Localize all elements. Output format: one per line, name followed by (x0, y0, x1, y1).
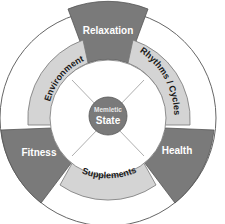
center-label-line1: Memletic (94, 106, 122, 113)
label-fitness: Fitness (21, 147, 56, 158)
label-relaxation: Relaxation (83, 25, 134, 36)
memletic-diagram: Memletic State Relaxation Health Fitness… (0, 0, 225, 224)
label-health: Health (162, 145, 193, 156)
center-label-line2: State (96, 115, 121, 126)
